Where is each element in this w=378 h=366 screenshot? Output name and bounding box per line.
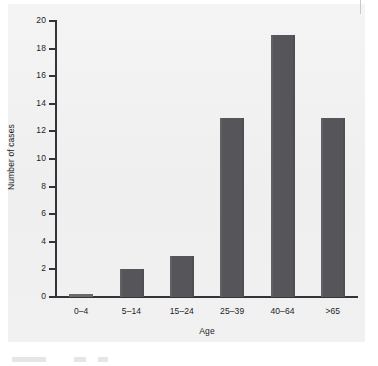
bar <box>170 256 194 297</box>
x-tick-label: 15–24 <box>154 306 210 316</box>
y-tick-label-wrap: 14 <box>0 99 46 108</box>
bar <box>271 35 295 297</box>
bar <box>220 118 244 297</box>
y-tick-label-wrap: 16 <box>0 71 46 80</box>
y-tick-label: 12 <box>2 126 46 135</box>
y-tick-label: 0 <box>2 292 46 301</box>
y-tick-label: 10 <box>2 154 46 163</box>
y-tick-label-wrap: 6 <box>0 209 46 218</box>
y-tick-mark <box>49 48 55 50</box>
y-tick-mark <box>49 213 55 215</box>
y-tick-label-wrap: 8 <box>0 182 46 191</box>
y-tick-label-wrap: 18 <box>0 44 46 53</box>
x-tick-label: 0–4 <box>53 306 109 316</box>
y-tick-mark <box>49 20 55 22</box>
x-tick-label: 25–39 <box>204 306 260 316</box>
y-tick-label: 2 <box>2 264 46 273</box>
y-tick-label: 8 <box>2 182 46 191</box>
y-tick-label-wrap: 12 <box>0 126 46 135</box>
y-tick-label-wrap: 20 <box>0 16 46 25</box>
y-tick-mark <box>49 241 55 243</box>
bar-chart: Number of cases 02468101214161820 0–45–1… <box>0 0 378 366</box>
y-tick-label-wrap: 10 <box>0 154 46 163</box>
x-axis-title: Age <box>56 326 358 336</box>
plot-area <box>56 21 358 297</box>
y-tick-label-wrap: 2 <box>0 264 46 273</box>
bar <box>321 118 345 297</box>
y-tick-label: 6 <box>2 209 46 218</box>
y-tick-mark <box>49 158 55 160</box>
x-tick-label: >65 <box>305 306 361 316</box>
y-tick-mark <box>49 186 55 188</box>
x-tick-label: 40–64 <box>255 306 311 316</box>
x-tick-label: 5–14 <box>104 306 160 316</box>
y-tick-mark <box>49 296 55 298</box>
y-tick-label: 18 <box>2 44 46 53</box>
y-tick-label: 16 <box>2 71 46 80</box>
y-tick-mark <box>49 103 55 105</box>
bar <box>120 269 144 297</box>
y-tick-label: 14 <box>2 99 46 108</box>
y-tick-mark <box>49 268 55 270</box>
y-tick-label: 4 <box>2 237 46 246</box>
y-tick-mark <box>49 130 55 132</box>
figure-caption-sliver <box>12 357 132 362</box>
y-tick-label-wrap: 0 <box>0 292 46 301</box>
bar <box>69 294 93 297</box>
y-tick-label-wrap: 4 <box>0 237 46 246</box>
y-tick-mark <box>49 75 55 77</box>
y-tick-label: 20 <box>2 16 46 25</box>
